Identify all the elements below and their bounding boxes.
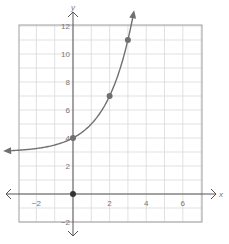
- function-curve: [7, 14, 133, 151]
- y-axis-label: y: [70, 3, 76, 12]
- data-point: [70, 135, 76, 141]
- x-tick-label: 6: [181, 199, 186, 208]
- data-point: [107, 93, 113, 99]
- grid-lines: [19, 25, 202, 222]
- y-tick-label: 2: [66, 162, 71, 171]
- x-tick-label: 4: [144, 199, 149, 208]
- y-tick-label: 6: [66, 106, 71, 115]
- y-tick-label: 10: [61, 50, 70, 59]
- curve-left-arrow-icon: [3, 147, 11, 154]
- data-point: [125, 37, 131, 43]
- curve-up-arrow-icon: [129, 10, 136, 19]
- x-axis-label: x: [218, 190, 224, 199]
- y-tick-label: 12: [61, 22, 70, 31]
- x-tick-label: −2: [32, 199, 42, 208]
- y-tick-label: −2: [61, 218, 71, 227]
- exponential-graph: −224612108642−2 x y: [0, 0, 229, 244]
- origin-point: [70, 191, 76, 197]
- y-tick-label: 8: [66, 78, 71, 87]
- grid-border: [19, 25, 202, 222]
- x-tick-label: 2: [107, 199, 112, 208]
